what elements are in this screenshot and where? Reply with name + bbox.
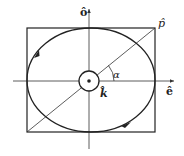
- propagation-label: k̂: [100, 88, 108, 99]
- center-dot-icon: [87, 79, 91, 83]
- diagonal-label: p̂: [158, 18, 165, 29]
- angle-label: α: [113, 70, 120, 80]
- horizontal-axis-label: ê: [166, 86, 173, 97]
- vertical-axis-label: ô: [80, 7, 87, 18]
- polarization-diagram: [0, 0, 184, 156]
